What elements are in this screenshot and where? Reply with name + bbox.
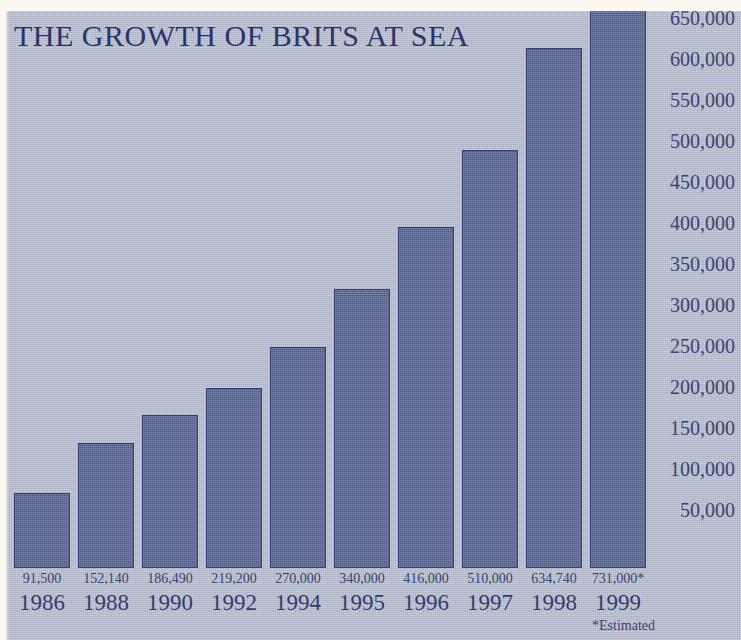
bar-1999[interactable] <box>590 11 646 568</box>
bar-value-label: 510,000 <box>458 571 522 587</box>
x-tick-label: 1995 <box>330 590 394 616</box>
bar-value-label: 91,500 <box>10 571 74 587</box>
y-tick-label: 500,000 <box>670 130 735 153</box>
y-tick-label: 200,000 <box>670 376 735 399</box>
y-tick-label: 400,000 <box>670 212 735 235</box>
bar-1995[interactable] <box>334 289 390 568</box>
y-tick-label: 50,000 <box>680 499 735 522</box>
plot-area: 91,5001986152,1401988186,4901990219,2001… <box>6 11 639 640</box>
y-tick-label: 300,000 <box>670 294 735 317</box>
bar-1988[interactable] <box>78 443 134 568</box>
bar-1986[interactable] <box>14 493 70 568</box>
bar-value-label: 340,000 <box>330 571 394 587</box>
chart-root: THE GROWTH OF BRITS AT SEA 91,5001986152… <box>0 0 741 640</box>
x-tick-label: 1986 <box>10 590 74 616</box>
x-tick-label: 1994 <box>266 590 330 616</box>
bar-value-label: 634,740 <box>522 571 586 587</box>
chart-plate: THE GROWTH OF BRITS AT SEA 91,5001986152… <box>6 11 741 640</box>
bar-value-label: 416,000 <box>394 571 458 587</box>
bar-1992[interactable] <box>206 388 262 568</box>
y-tick-label: 100,000 <box>670 458 735 481</box>
y-tick-label: 550,000 <box>670 89 735 112</box>
x-tick-label: 1997 <box>458 590 522 616</box>
y-tick-label: 350,000 <box>670 253 735 276</box>
bar-1994[interactable] <box>270 347 326 568</box>
bar-value-label: 270,000 <box>266 571 330 587</box>
y-tick-label: 650,000 <box>670 11 735 30</box>
y-tick-label: 250,000 <box>670 335 735 358</box>
y-tick-label: 150,000 <box>670 417 735 440</box>
y-tick-label: 450,000 <box>670 171 735 194</box>
bar-value-label: 219,200 <box>202 571 266 587</box>
axis-label-band: 91,5001986152,1401988186,4901990219,2001… <box>6 568 639 640</box>
y-tick-label: 600,000 <box>670 48 735 71</box>
bar-value-label: 186,490 <box>138 571 202 587</box>
x-tick-label: 1992 <box>202 590 266 616</box>
x-tick-label: 1990 <box>138 590 202 616</box>
x-tick-label: 1996 <box>394 590 458 616</box>
bar-1998[interactable] <box>526 48 582 568</box>
bar-1996[interactable] <box>398 227 454 568</box>
x-tick-label: 1998 <box>522 590 586 616</box>
bar-1997[interactable] <box>462 150 518 568</box>
footnote-estimated: *Estimated <box>592 618 655 634</box>
bar-value-label: 152,140 <box>74 571 138 587</box>
bar-1990[interactable] <box>142 415 198 568</box>
y-axis: 700,000650,000600,000550,000500,000450,0… <box>639 11 741 640</box>
x-tick-label: 1988 <box>74 590 138 616</box>
